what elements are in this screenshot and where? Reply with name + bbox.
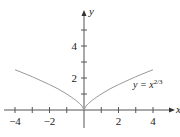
- x-tick-label-neg2: −2: [44, 115, 56, 127]
- y-tick-label-4: 4: [72, 40, 78, 52]
- y-tick-label-2: 2: [72, 72, 78, 84]
- x-tick-label-neg4: −4: [9, 115, 21, 127]
- equation-label: y = x2/3: [132, 78, 163, 90]
- x-tick-label-4: 4: [150, 115, 156, 127]
- equation-exponent: 2/3: [154, 78, 163, 86]
- x-axis-label: x: [175, 103, 180, 115]
- chart: −4 −2 2 4 2 4 x y y = x2/3: [0, 0, 180, 137]
- y-axis-arrow-icon: [82, 10, 87, 16]
- y-axis-label: y: [88, 5, 94, 17]
- equation-base: y = x: [132, 79, 154, 90]
- x-axis-arrow-icon: [169, 108, 175, 113]
- x-tick-label-2: 2: [116, 115, 122, 127]
